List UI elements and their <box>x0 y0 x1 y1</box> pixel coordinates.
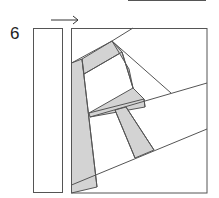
block-pieces <box>72 28 208 193</box>
piecing-diagram <box>0 0 219 198</box>
arrow-icon <box>51 16 78 24</box>
fabric-strip <box>34 29 63 193</box>
